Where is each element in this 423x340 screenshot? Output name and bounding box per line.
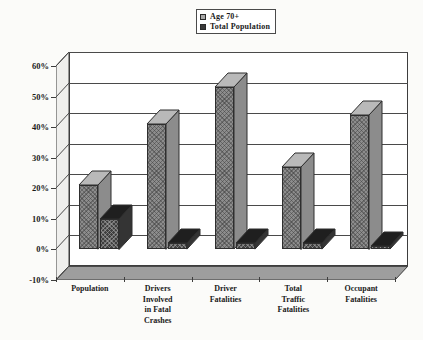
bar-column[interactable] <box>147 124 166 249</box>
x-axis-tick <box>259 277 260 282</box>
bar-column[interactable] <box>350 115 369 250</box>
legend-label: Age 70+ <box>210 12 239 21</box>
x-axis-tick <box>56 277 57 282</box>
bar-front-face <box>215 87 234 249</box>
bar-column[interactable] <box>79 185 98 249</box>
y-axis-tick-label: 40% <box>32 122 49 132</box>
gridline-depth-connector <box>56 144 70 160</box>
gridline <box>69 52 408 53</box>
y-axis-tick-label: 10% <box>32 214 49 224</box>
bar-front-face <box>79 185 98 249</box>
legend-swatch-icon <box>200 24 206 30</box>
bar-column[interactable] <box>215 87 234 249</box>
gridline-depth-connector <box>56 113 70 129</box>
bar-front-face <box>100 219 119 250</box>
bar-front-face <box>147 124 166 249</box>
chart-container: Age 70+ Total Population 60%50%40%30%20%… <box>0 0 423 340</box>
bar-column[interactable] <box>371 246 390 249</box>
bar-column[interactable] <box>168 243 187 249</box>
gridline-depth-connector <box>56 52 70 68</box>
bar-front-face <box>282 167 301 250</box>
bar-column[interactable] <box>303 243 322 249</box>
bar-column[interactable] <box>236 243 255 249</box>
bar-front-face <box>350 115 369 250</box>
y-axis-tick-label: 30% <box>32 153 49 163</box>
y-axis-tick-label: -10% <box>29 275 49 285</box>
gridline-depth-connector <box>56 205 70 221</box>
legend-item-total-population[interactable]: Total Population <box>200 22 270 31</box>
y-axis-tick-label: 50% <box>32 92 49 102</box>
legend-swatch-icon <box>200 14 206 20</box>
gridline-depth-connector <box>56 266 70 282</box>
bar-front-face <box>303 243 322 249</box>
bar-front-face <box>168 243 187 249</box>
x-axis-tick <box>192 277 193 282</box>
bar-front-face <box>236 243 255 249</box>
gridline-depth-connector <box>56 174 70 190</box>
x-axis-tick <box>327 277 328 282</box>
y-axis-tick-label: 0% <box>36 244 49 254</box>
chart-legend: Age 70+ Total Population <box>196 9 276 34</box>
bar-front-face <box>371 246 390 249</box>
plot-area <box>56 52 408 280</box>
x-axis-tick <box>124 277 125 282</box>
y-axis-tick-label: 60% <box>32 61 49 71</box>
x-axis-category-label: Occupant Fatalities <box>321 284 401 305</box>
gridline-depth-connector <box>56 83 70 99</box>
bar-column[interactable] <box>100 219 119 250</box>
gridline <box>69 266 408 267</box>
x-axis-tick <box>395 277 396 282</box>
gridline-depth-connector <box>56 235 70 251</box>
legend-label: Total Population <box>210 22 270 31</box>
legend-item-age-70-plus[interactable]: Age 70+ <box>200 12 270 21</box>
bar-column[interactable] <box>282 167 301 250</box>
y-axis-tick-label: 20% <box>32 183 49 193</box>
